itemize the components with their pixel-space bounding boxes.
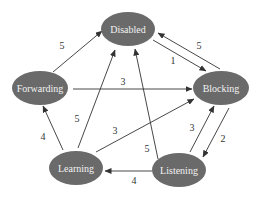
edge-arrow-learning-to-disabled: [78, 50, 115, 148]
node-disabled: Disabled: [101, 12, 155, 46]
edge-label-forwarding-to-blocking: 3: [121, 76, 126, 87]
edge-label-learning-to-forwarding: 4: [41, 131, 46, 142]
edge-label-listening-to-blocking: 3: [190, 122, 195, 133]
node-label-disabled: Disabled: [110, 24, 146, 35]
node-blocking: Blocking: [193, 71, 249, 105]
edge-label-listening-to-disabled: 5: [145, 143, 150, 154]
node-learning: Learning: [49, 151, 103, 185]
node-label-listening: Listening: [160, 165, 198, 176]
edge-label-blocking-to-disabled: 5: [197, 40, 202, 51]
state-diagram: 51534535324 DisabledForwardingBlockingLe…: [0, 0, 264, 199]
edge-label-learning-to-blocking: 3: [113, 125, 118, 136]
edge-label-listening-to-learning: 4: [132, 175, 137, 186]
nodes-group: DisabledForwardingBlockingLearningListen…: [12, 12, 249, 187]
edge-arrow-blocking-to-disabled: [158, 33, 220, 69]
node-label-forwarding: Forwarding: [17, 83, 64, 94]
edge-label-disabled-to-blocking: 1: [171, 55, 176, 66]
edge-arrow-forwarding-to-disabled: [53, 31, 102, 72]
edge-label-learning-to-disabled: 5: [75, 113, 80, 124]
edge-arrow-learning-to-forwarding: [43, 106, 63, 150]
node-label-blocking: Blocking: [203, 83, 240, 94]
node-listening: Listening: [152, 153, 206, 187]
edge-label-blocking-to-listening: 2: [221, 133, 226, 144]
node-forwarding: Forwarding: [12, 71, 68, 105]
node-label-learning: Learning: [58, 163, 94, 174]
edge-label-forwarding-to-disabled: 5: [60, 40, 65, 51]
